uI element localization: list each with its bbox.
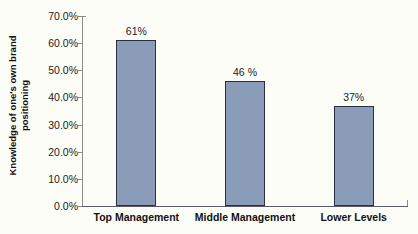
bar-chart: Knowledge of one's own brand positioning… (0, 0, 418, 234)
x-axis-line (82, 206, 408, 207)
y-axis-tick-mark (78, 97, 82, 98)
x-axis-category-label: Top Management (94, 211, 180, 223)
plot-area: 61%46 %37% (82, 16, 408, 206)
bar-value-label: 37% (343, 91, 364, 103)
y-axis-title-line-1: Knowledge of one's own brand (7, 35, 19, 175)
x-axis-category-label: Middle Management (195, 211, 295, 223)
y-axis-tick-mark (78, 125, 82, 126)
y-axis-tick-label: 60.0% (32, 37, 78, 49)
bar-value-label: 61% (126, 25, 147, 37)
y-axis-tick-mark (78, 152, 82, 153)
y-axis-tick-label: 30.0% (32, 119, 78, 131)
y-axis-tick-label: 0.0% (32, 200, 78, 212)
x-axis-category-label: Lower Levels (320, 211, 387, 223)
bar-group: 37% (334, 16, 374, 206)
y-axis-tick-labels: 70.0%60.0%50.0%40.0%30.0%20.0%10.0%0.0% (30, 0, 78, 234)
bar (225, 81, 265, 206)
y-axis-tick-label: 20.0% (32, 146, 78, 158)
y-axis-tick-label: 70.0% (32, 10, 78, 22)
bar-value-label: 46 % (233, 66, 257, 78)
bar (334, 106, 374, 206)
y-axis-tick-mark (78, 206, 82, 207)
y-axis-tick-label: 50.0% (32, 64, 78, 76)
bar-group: 61% (116, 16, 156, 206)
y-axis-title-line-2: positioning (18, 35, 30, 175)
y-axis-tick-mark (78, 43, 82, 44)
bar (116, 40, 156, 206)
y-axis-tick-mark (78, 16, 82, 17)
y-axis-tick-label: 40.0% (32, 91, 78, 103)
y-axis-tick-mark (78, 179, 82, 180)
y-axis-tick-label: 10.0% (32, 173, 78, 185)
y-axis-tick-mark (78, 70, 82, 71)
bar-group: 46 % (225, 16, 265, 206)
x-axis-category-labels: Top ManagementMiddle ManagementLower Lev… (82, 209, 408, 231)
